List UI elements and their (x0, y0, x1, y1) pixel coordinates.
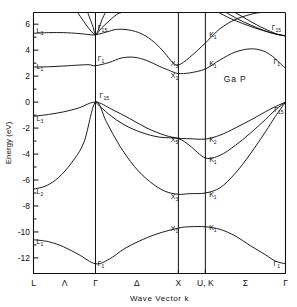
band-curve-valence-4-light (34, 102, 286, 139)
bands-layer (34, 13, 286, 264)
band-curve-conduction-2 (34, 13, 261, 66)
ytick-label: 6 (25, 19, 30, 29)
band-point-label: K1 (209, 224, 217, 233)
plot-frame (34, 13, 286, 274)
ytick-label: 0 (25, 97, 30, 107)
xtick-label-segment: Σ (243, 278, 248, 288)
ytick-label: 4 (25, 45, 30, 55)
band-point-label: Γ1 (273, 260, 280, 269)
ytick-label: -12 (18, 253, 31, 263)
axes-layer: 6420-2-4-6-8-10-12 (18, 13, 286, 274)
ytick-label: -6 (22, 175, 30, 185)
band-point-label: Γ15 (100, 92, 110, 101)
xtick-label-symmetry: Γ (93, 278, 98, 288)
band-point-label: Γ15 (272, 24, 282, 33)
axis-labels-layer: LΓXU, KΓΛΔΣWave Vector kEnergy (eV)Ga P (4, 74, 288, 303)
band-structure-figure: 6420-2-4-6-8-10-12 L3L1L3L2L1Γ15Γ1Γ15Γ1X… (0, 0, 297, 307)
xtick-label-segment: Λ (62, 278, 68, 288)
band-point-label: K1 (209, 156, 217, 165)
band-curve-valence-3 (95, 102, 285, 158)
ytick-label: -2 (22, 123, 30, 133)
ytick-label: -8 (22, 201, 30, 211)
y-axis-title: Energy (eV) (4, 121, 13, 164)
band-point-label: L3 (37, 115, 44, 124)
band-point-label: X1 (171, 225, 179, 234)
band-point-label: X3 (171, 60, 179, 69)
material-label: Ga P (224, 74, 247, 84)
band-structure-plot: 6420-2-4-6-8-10-12 L3L1L3L2L1Γ15Γ1Γ15Γ1X… (0, 0, 297, 307)
band-curve-conduction-1 (34, 49, 286, 74)
band-point-label: L2 (37, 188, 44, 197)
ytick-label: -4 (22, 149, 30, 159)
xtick-label-symmetry: X (176, 278, 182, 288)
xtick-label-symmetry: U, K (197, 278, 214, 288)
xtick-label-symmetry: Γ (283, 278, 288, 288)
band-point-label: Γ1 (273, 58, 280, 67)
band-curve-valence-2 (34, 102, 286, 195)
band-point-label: L1 (37, 63, 44, 72)
band-point-label: K1 (209, 60, 217, 69)
band-curve-valence-1-heavy (34, 227, 286, 264)
ytick-label: -10 (18, 227, 31, 237)
x-axis-title: Wave Vector k (130, 294, 189, 303)
xtick-label-symmetry: L (31, 278, 36, 288)
xtick-label-segment: Δ (134, 278, 140, 288)
band-point-label: L1 (37, 238, 44, 247)
band-point-label: L3 (37, 27, 44, 36)
ytick-label: 2 (25, 71, 30, 81)
band-point-label: Γ1 (98, 55, 105, 64)
band-point-label: K1 (209, 191, 217, 200)
